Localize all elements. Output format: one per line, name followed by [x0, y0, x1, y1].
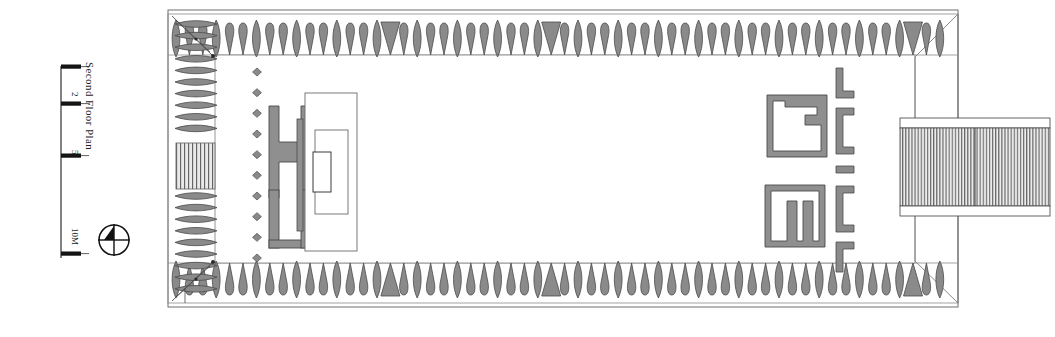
thin-screen-wall — [297, 119, 303, 231]
drawing-sheet: Second Floor Plan 2 5 10M — [0, 0, 1055, 337]
west-entrance-stair — [176, 143, 215, 189]
scale-tick-label-10: 10M — [70, 228, 80, 245]
floor-plan-drawing — [0, 0, 1055, 337]
page-title: Second Floor Plan — [84, 62, 96, 150]
central-shrine-platform — [305, 93, 357, 251]
scale-tick-label-5: 5 — [70, 150, 80, 155]
scale-tick-label-2: 2 — [70, 92, 80, 97]
north-arrow-compass — [98, 224, 130, 256]
east-projecting-stair-block — [900, 118, 1050, 216]
